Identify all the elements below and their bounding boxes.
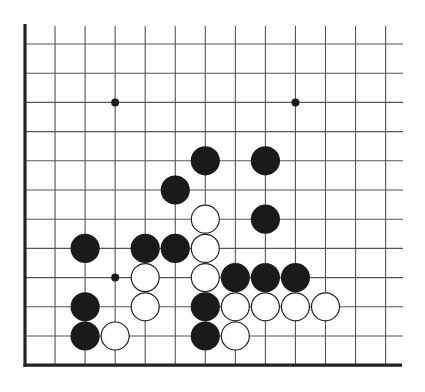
black-stone-icon	[191, 292, 220, 321]
black-stone-icon	[71, 321, 100, 350]
white-stone-icon	[281, 293, 309, 321]
black-stone-icon	[251, 146, 280, 175]
white-stone-icon	[191, 264, 219, 292]
black-stone-icon	[71, 234, 100, 263]
white-stone-icon	[131, 264, 159, 292]
white-stone-icon	[221, 293, 249, 321]
black-stone-icon	[71, 292, 100, 321]
black-stone-icon	[161, 175, 190, 204]
star-point-icon	[111, 98, 119, 106]
black-stone-icon	[251, 263, 280, 292]
white-stone-icon	[221, 322, 249, 350]
black-stone-icon	[161, 234, 190, 263]
white-stone-icon	[312, 293, 340, 321]
black-stone-icon	[251, 205, 280, 234]
go-board	[0, 0, 425, 392]
black-stone-icon	[221, 263, 250, 292]
white-stone-icon	[191, 234, 219, 262]
black-stone-icon	[191, 321, 220, 350]
white-stone-icon	[191, 205, 219, 233]
black-stone-icon	[281, 263, 310, 292]
star-point-icon	[111, 274, 119, 282]
star-point-icon	[291, 98, 299, 106]
white-stone-icon	[251, 293, 279, 321]
black-stone-icon	[191, 146, 220, 175]
white-stone-icon	[131, 293, 159, 321]
black-stone-icon	[131, 234, 160, 263]
white-stone-icon	[101, 322, 129, 350]
